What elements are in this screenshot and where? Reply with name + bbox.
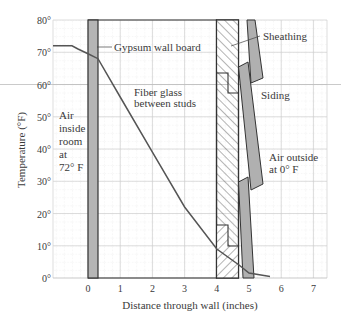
- x-axis-ticks: 0 1 2 3 4 5 6 7: [86, 283, 316, 294]
- label-gypsum: Gypsum wall board: [114, 41, 201, 53]
- svg-text:6: 6: [279, 283, 284, 294]
- label-inside-3: room: [59, 135, 83, 147]
- svg-text:5: 5: [247, 283, 252, 294]
- wall-temperature-diagram: Gypsum wall board Fiber glass between st…: [0, 0, 341, 325]
- svg-text:0: 0: [86, 283, 91, 294]
- label-inside-4: at: [59, 148, 67, 160]
- y-axis-title: Temperature (°F): [15, 112, 28, 188]
- svg-text:30°: 30°: [37, 176, 51, 187]
- svg-text:7: 7: [311, 283, 316, 294]
- label-siding: Siding: [261, 89, 290, 101]
- svg-text:2: 2: [150, 283, 155, 294]
- label-fiberglass-2: between studs: [134, 97, 196, 109]
- label-inside-2: inside: [59, 122, 85, 134]
- label-inside-1: Air: [59, 109, 74, 121]
- svg-text:10°: 10°: [37, 241, 51, 252]
- label-outside-1: Air outside: [269, 151, 318, 163]
- svg-text:70°: 70°: [37, 47, 51, 58]
- svg-text:1: 1: [118, 283, 123, 294]
- svg-text:3: 3: [182, 283, 187, 294]
- svg-text:60°: 60°: [37, 80, 51, 91]
- stud-sheathing: [217, 20, 239, 278]
- label-outside-2: at 0° F: [269, 163, 298, 175]
- x-axis-title: Distance through wall (inches): [122, 299, 258, 312]
- svg-text:20°: 20°: [37, 209, 51, 220]
- y-axis-ticks: 0° 10° 20° 30° 40° 50° 60° 70° 80°: [37, 15, 51, 284]
- plot-grid: [0, 20, 341, 278]
- label-sheathing: Sheathing: [263, 30, 307, 42]
- svg-text:4: 4: [214, 283, 219, 294]
- svg-text:80°: 80°: [37, 15, 51, 26]
- svg-text:0°: 0°: [42, 273, 51, 284]
- svg-text:50°: 50°: [37, 112, 51, 123]
- svg-text:40°: 40°: [37, 144, 51, 155]
- label-inside-5: 72° F: [59, 161, 83, 173]
